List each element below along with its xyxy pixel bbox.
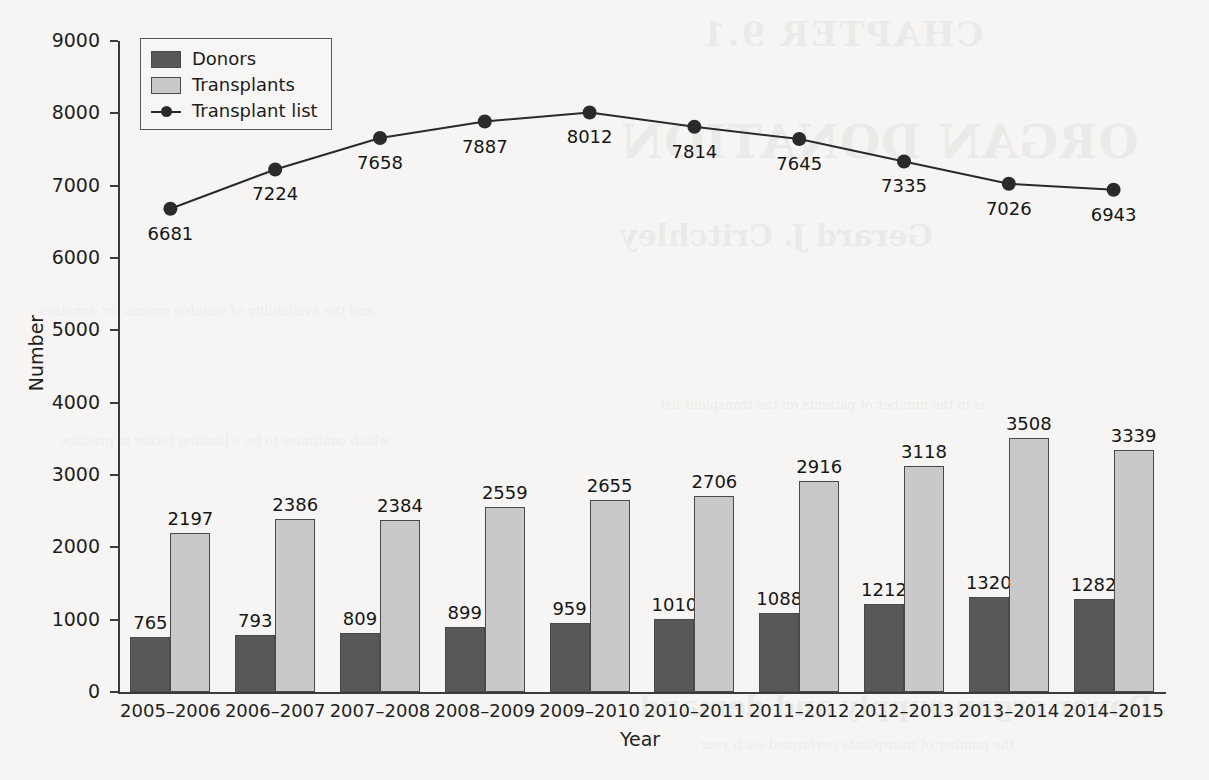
bleed-through-body-4: the number of transplants performed each… (700, 735, 1014, 755)
y-axis-tick (110, 402, 118, 404)
y-axis-tick-label: 7000 (22, 174, 100, 196)
line-data-point[interactable] (1002, 177, 1016, 191)
y-axis-tick (110, 619, 118, 621)
y-axis-tick-label: 9000 (22, 29, 100, 51)
legend-swatch-donors-icon (151, 51, 181, 68)
y-axis-tick-label: 6000 (22, 246, 100, 268)
line-data-point[interactable] (792, 132, 806, 146)
legend-item-label: Transplants (192, 76, 295, 94)
line-value-label: 7814 (671, 141, 717, 162)
transplant-list-line (118, 41, 1166, 692)
y-axis-tick (110, 40, 118, 42)
x-axis-line (118, 692, 1166, 694)
y-axis-tick (110, 112, 118, 114)
legend-item-donors[interactable]: Donors (151, 46, 321, 72)
bar-line-chart-figure: CHAPTER 9.1 ORGAN DONATION Gerard J. Cri… (0, 0, 1209, 780)
line-value-label: 7224 (252, 183, 298, 204)
y-axis-tick-label: 3000 (22, 463, 100, 485)
legend-swatch-line-icon (151, 103, 181, 120)
y-axis-tick (110, 691, 118, 693)
line-value-label: 7645 (776, 153, 822, 174)
legend-swatch-transplants-icon (151, 77, 181, 94)
line-data-point[interactable] (163, 202, 177, 216)
line-value-label: 6943 (1091, 204, 1137, 225)
y-axis-tick (110, 546, 118, 548)
y-axis-tick (110, 257, 118, 259)
x-axis-tick-label: 2008–2009 (432, 700, 537, 721)
y-axis-tick-label: 1000 (22, 608, 100, 630)
x-axis-tick-label: 2007–2008 (328, 700, 433, 721)
line-data-point[interactable] (478, 115, 492, 129)
line-data-point[interactable] (897, 154, 911, 168)
legend-item-line[interactable]: Transplant list (151, 98, 321, 124)
x-axis-tick-label: 2012–2013 (852, 700, 957, 721)
x-axis-tick-label: 2014–2015 (1061, 700, 1166, 721)
x-axis-tick-label: 2010–2011 (642, 700, 747, 721)
y-axis-tick-label: 0 (22, 680, 100, 702)
y-axis-tick (110, 329, 118, 331)
line-data-point[interactable] (583, 105, 597, 119)
x-axis-tick-label: 2013–2014 (956, 700, 1061, 721)
y-axis-tick-label: 2000 (22, 535, 100, 557)
plot-area: 7652197793238680923848992559959265510102… (118, 41, 1166, 692)
chart-legend: DonorsTransplantsTransplant list (140, 38, 332, 130)
line-value-label: 7026 (986, 198, 1032, 219)
legend-item-label: Transplant list (192, 102, 318, 120)
line-data-point[interactable] (373, 131, 387, 145)
legend-item-transplants[interactable]: Transplants (151, 72, 321, 98)
x-axis-tick-label: 2009–2010 (537, 700, 642, 721)
y-axis-tick-label: 8000 (22, 101, 100, 123)
line-value-label: 7335 (881, 175, 927, 196)
line-value-label: 8012 (567, 126, 613, 147)
legend-item-label: Donors (192, 50, 256, 68)
line-value-label: 7887 (462, 136, 508, 157)
y-axis-tick (110, 185, 118, 187)
y-axis-tick (110, 474, 118, 476)
line-value-label: 6681 (147, 223, 193, 244)
x-axis-tick-label: 2006–2007 (223, 700, 328, 721)
x-axis-tick-label: 2011–2012 (747, 700, 852, 721)
line-data-point[interactable] (268, 162, 282, 176)
line-data-point[interactable] (687, 120, 701, 134)
y-axis-title: Number (25, 293, 47, 413)
x-axis-tick-label: 2005–2006 (118, 700, 223, 721)
line-data-point[interactable] (1107, 183, 1121, 197)
line-value-label: 7658 (357, 152, 403, 173)
x-axis-title: Year (580, 728, 700, 750)
